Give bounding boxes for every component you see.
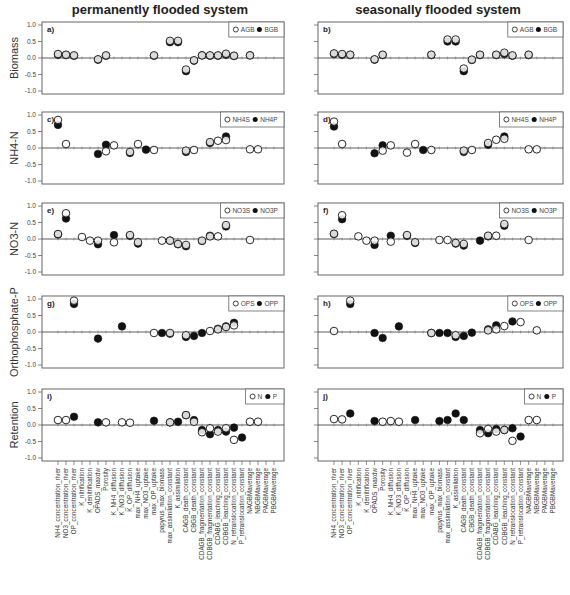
x-tick-label: CAGB_death_constant [182,468,190,533]
panel-i: -1.0-0.50.00.51.0Retentioni)NPNH4_concen… [8,388,284,559]
panel-g: -1.0-0.50.00.51.0Orthophosphate-Pg)OPSOP… [8,287,284,377]
legend-open-marker-icon [250,394,255,399]
y-tick-label: -0.5 [25,71,37,78]
data-point-open [222,50,230,58]
x-tick-label: P_retranslocation_constant [238,468,246,545]
y-axis-label: NH4-N [8,131,20,165]
data-point-filled [371,417,379,425]
x-tick-label: PBGBMaverage [270,468,278,514]
data-point-open [86,237,94,245]
data-point-open [206,233,214,241]
data-point-open [403,149,411,157]
x-tick-label: OP_concentration_river [346,468,354,534]
data-point-open [134,239,142,247]
data-point-open [492,136,500,144]
data-point-open [452,332,460,340]
x-tick-label: CAGB_death_constant [460,468,468,533]
data-point-filled [419,146,427,154]
data-point-open [330,50,338,58]
panel-letter: e) [47,206,54,215]
panel-a: -1.0-0.50.00.51.0Biomassa)AGBBGB [8,21,284,94]
data-point-filled [198,329,206,337]
y-tick-label: -1.0 [25,87,37,94]
x-tick-label: NO3_concentration_river [338,468,346,538]
data-point-open [150,52,158,60]
data-point-open [70,297,78,305]
x-tick-label: NBGBMaverage [533,468,541,514]
panel-b: b)AGBBGB [314,22,563,94]
x-tick-label: CDABG_leaching_constant [492,468,500,545]
data-point-open [78,233,86,241]
x-tick-label: NH4_concentration_river [54,468,62,538]
x-tick-label: CDAGB_fragmentation_constant [198,468,206,560]
data-point-open [533,416,541,424]
x-tick-label: CDAGB_fragmentation_constant [476,468,484,560]
data-point-open [484,232,492,240]
data-point-filled [346,410,354,418]
panel-letter: a) [47,25,54,34]
data-point-open [166,329,174,337]
data-point-open [214,52,222,60]
x-tick-label: N_retranslocation_constant [509,468,517,545]
data-point-open [126,419,134,427]
data-point-open [174,37,182,45]
legend-filled-marker-icon [253,117,258,122]
data-point-filled [509,318,517,326]
data-point-open [452,36,460,44]
x-tick-label: K_NO3_diffusion [118,468,126,516]
x-tick-label: Porosity [102,467,110,491]
data-point-open [118,419,126,427]
data-point-filled [517,433,525,441]
panel-letter: c) [47,115,54,124]
x-tick-label: K_nitrification [78,468,86,506]
x-tick-label: OP_concentration_river [70,468,78,534]
x-tick-label: NAGBMaverage [525,468,533,514]
data-point-open [476,51,484,59]
legend-open-marker-icon [529,394,534,399]
legend-label: OPP [264,300,278,307]
data-point-open [246,236,254,244]
legend-label: OPP [543,300,557,307]
data-point-filled [395,323,403,331]
data-point-filled [174,418,182,426]
data-point-open [150,329,158,337]
x-tick-label: K_denitrification [86,468,94,513]
data-point-open [182,411,190,419]
column-title-seasonal: seasonally flooded system [355,2,520,17]
legend-filled-marker-icon [265,394,270,399]
legend-filled-marker-icon [532,117,537,122]
data-point-open [492,51,500,59]
data-point-open [54,50,62,58]
legend-filled-marker-icon [257,301,262,306]
data-point-filled [460,416,468,424]
y-tick-label: 0.5 [27,38,36,45]
data-point-open [206,425,214,433]
x-tick-label: CBGB_death_constant [190,468,198,533]
legend-label: BGB [264,26,278,33]
legend-label: NH4P [260,116,277,123]
data-point-open [338,50,346,58]
data-point-filled [468,329,476,337]
data-point-open [174,240,182,248]
data-point-open [501,322,509,330]
legend-open-marker-icon [512,301,517,306]
data-point-filled [460,332,468,340]
data-point-open [428,51,436,59]
data-point-filled [476,237,484,245]
legend-label: AGB [520,26,534,33]
x-tick-label: OPADS_maxdw [371,468,379,513]
data-point-open [70,52,78,60]
data-point-open [182,332,190,340]
data-point-open [230,436,238,444]
data-point-open [501,426,509,434]
y-tick-label: 1.0 [27,295,36,302]
data-point-open [484,425,492,433]
data-point-open [54,230,62,238]
data-point-open [206,52,214,60]
y-tick-label: 1.0 [27,202,36,209]
x-tick-label: NBGBMaverage [254,468,262,514]
x-tick-label: CDBGB_fragmentation_constant [206,468,214,560]
data-point-filled [444,416,452,424]
x-tick-label: max_assimilation_constant [444,468,452,544]
x-tick-label: CDBGB_leaching_constant [222,468,230,545]
